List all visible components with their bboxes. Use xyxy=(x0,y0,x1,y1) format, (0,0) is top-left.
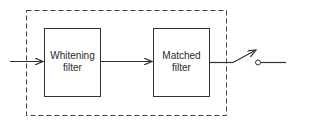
switch-arm xyxy=(233,50,256,63)
whitening-label-line1: Whitening xyxy=(44,50,101,62)
whitening-filter-label: Whitening filter xyxy=(44,50,101,74)
matched-label-line1: Matched xyxy=(153,50,210,62)
switch-contact xyxy=(256,60,261,65)
matched-filter-label: Matched filter xyxy=(153,50,210,74)
matched-label-line2: filter xyxy=(153,62,210,74)
whitening-label-line2: filter xyxy=(44,62,101,74)
